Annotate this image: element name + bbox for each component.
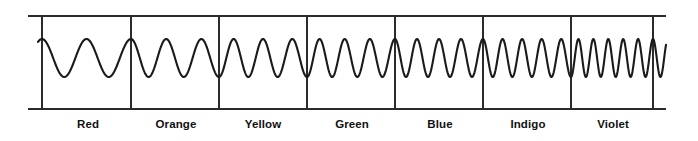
band-label-red: Red [77,118,99,130]
band-label-blue: Blue [427,118,452,130]
band-label-green: Green [335,118,369,130]
band-label-orange: Orange [156,118,197,130]
band-label-violet: Violet [597,118,629,130]
waveform-path [38,39,666,77]
spectrum-wave-figure: RedOrangeYellowGreenBlueIndigoViolet [0,0,698,141]
waveform-path-group [38,39,666,77]
band-label-yellow: Yellow [245,118,281,130]
frame-group [28,15,666,110]
band-label-indigo: Indigo [510,118,545,130]
